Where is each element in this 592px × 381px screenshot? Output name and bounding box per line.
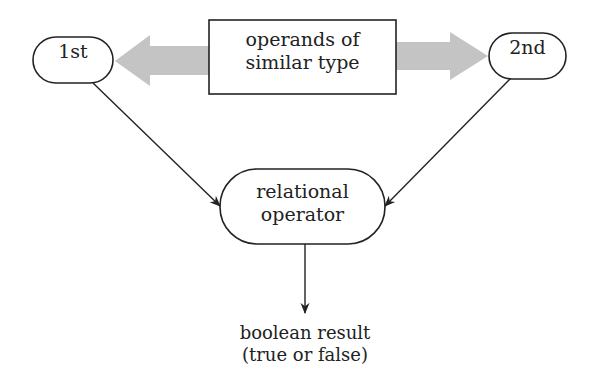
arrow-first-to-operator — [93, 83, 220, 206]
relational-operator-line2: operator — [220, 203, 385, 226]
result-line1: boolean result — [180, 322, 430, 344]
relational-operator-label: relational operator — [220, 180, 385, 226]
gray-arrow-right-icon — [396, 32, 488, 80]
result-line2: (true or false) — [180, 344, 430, 366]
boolean-result-label: boolean result (true or false) — [180, 322, 430, 365]
operands-box-label: operands of similar type — [209, 28, 396, 74]
diagram-canvas: 1st 2nd operands of similar type relatio… — [0, 0, 592, 381]
first-operand-label: 1st — [33, 40, 113, 63]
operands-box-line2: similar type — [209, 51, 396, 74]
second-operand-label: 2nd — [489, 36, 566, 59]
gray-arrow-left-icon — [115, 35, 209, 86]
relational-operator-line1: relational — [220, 180, 385, 203]
operands-box-line1: operands of — [209, 28, 396, 51]
arrow-second-to-operator — [385, 79, 510, 206]
